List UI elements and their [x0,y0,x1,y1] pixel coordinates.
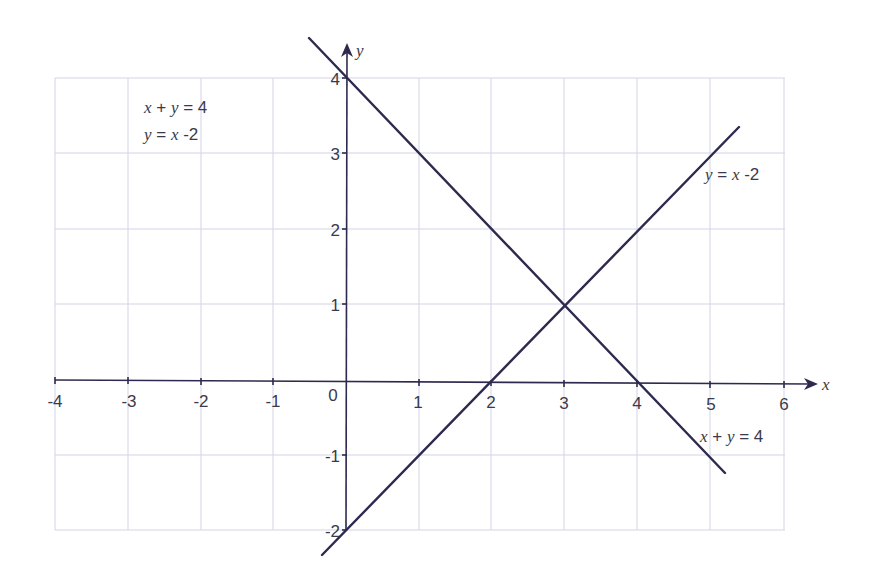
line-y-equals-x-minus-2 [322,127,739,555]
y-tick-label: 3 [331,145,340,164]
x-tick-label: -2 [193,392,208,411]
grid [55,78,785,530]
y-tick-label: 2 [331,221,340,240]
y-tick-label: -1 [325,447,340,466]
y-tick-labels: 4 3 2 1 -1 -2 [325,70,340,541]
y-axis [346,50,347,530]
x-tick-label: -1 [265,392,280,411]
line-x-plus-y-equals-4 [309,38,725,473]
y-tick-label: 4 [331,70,340,89]
data-lines [309,38,739,555]
y-tick-label: 1 [331,296,340,315]
legend-equation-2: y = x -2 [142,125,198,144]
y-tick-label: -2 [325,522,340,541]
line-label-x-plus-y-equals-4: x + y = 4 [699,427,763,446]
x-tick-label: -3 [121,392,136,411]
y-axis-label: y [354,41,364,60]
x-axis [55,380,812,384]
x-tick-label: 2 [486,393,495,412]
coordinate-graph: -4 -3 -2 -1 0 1 2 3 4 5 6 4 3 2 1 -1 -2 … [0,0,869,586]
legend-equation-1: x + y = 4 [143,98,207,117]
x-tick-label: 1 [413,393,422,412]
x-axis-label: x [821,375,830,394]
x-tick-label: 5 [706,395,715,414]
x-tick-label: 4 [632,394,641,413]
x-tick-label: -4 [47,392,62,411]
line-label-y-equals-x-minus-2: y = x -2 [703,165,759,184]
origin-label: 0 [328,386,337,405]
equations-legend: x + y = 4 y = x -2 [142,98,207,144]
x-tick-labels: -4 -3 -2 -1 0 1 2 3 4 5 6 [47,386,788,414]
x-tick-label: 6 [779,395,788,414]
x-tick-label: 3 [559,394,568,413]
